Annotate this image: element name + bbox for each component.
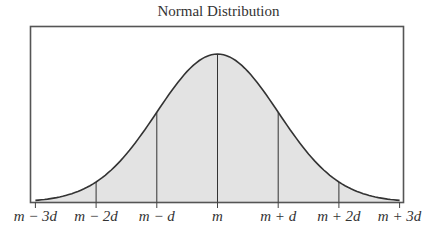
x-tick-label: m — [212, 208, 223, 224]
x-tick-label: m + d — [260, 208, 296, 224]
x-tick-label: m + 3d — [378, 208, 422, 224]
x-tick-label: m + 2d — [317, 208, 361, 224]
x-tick-label: m − d — [139, 208, 175, 224]
normal-distribution-plot: m − 3dm − 2dm − dmm + dm + 2dm + 3d — [0, 0, 437, 236]
x-tick-label: m − 3d — [14, 208, 58, 224]
x-tick-label: m − 2d — [74, 208, 118, 224]
